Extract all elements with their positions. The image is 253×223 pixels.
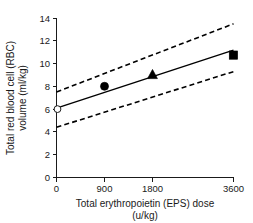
y-tick-label: 12 [39, 35, 50, 46]
y-axis-ticks [53, 18, 57, 178]
y-tick-label: 4 [45, 126, 50, 137]
x-axis-title-line2: (u/kg) [132, 210, 158, 221]
data-point-triangle [148, 70, 158, 79]
y-tick-label: 14 [39, 13, 50, 24]
x-axis-ticks [57, 178, 234, 182]
y-axis-title-line1: Total red blood cell (RBC) [5, 41, 16, 155]
data-point-circle [101, 82, 109, 90]
data-point-square [229, 51, 237, 59]
x-tick-label: 1800 [142, 183, 163, 194]
x-tick-label: 900 [97, 183, 113, 194]
y-tick-label: 0 [45, 172, 50, 183]
y-axis-tick-labels: 0 2 4 6 8 10 12 14 [39, 13, 50, 184]
x-tick-label: 3600 [223, 183, 244, 194]
y-tick-label: 2 [45, 149, 50, 160]
y-axis-title-line2: volume (ml/kg) [17, 65, 28, 131]
x-axis-title-line1: Total erythropoietin (EPS) dose [76, 198, 215, 209]
chart-figure: 0 2 4 6 8 10 12 14 0 900 1800 3600 [0, 0, 253, 223]
scatter-plot: 0 2 4 6 8 10 12 14 0 900 1800 3600 [0, 0, 253, 223]
x-axis-tick-labels: 0 900 1800 3600 [54, 183, 244, 194]
y-tick-label: 8 [45, 81, 50, 92]
y-tick-label: 10 [39, 58, 50, 69]
y-tick-label: 6 [45, 104, 50, 115]
x-tick-label: 0 [54, 183, 59, 194]
data-point-open-circle [54, 106, 61, 113]
axis-lines [57, 18, 234, 178]
upper-confidence-line [57, 24, 234, 92]
